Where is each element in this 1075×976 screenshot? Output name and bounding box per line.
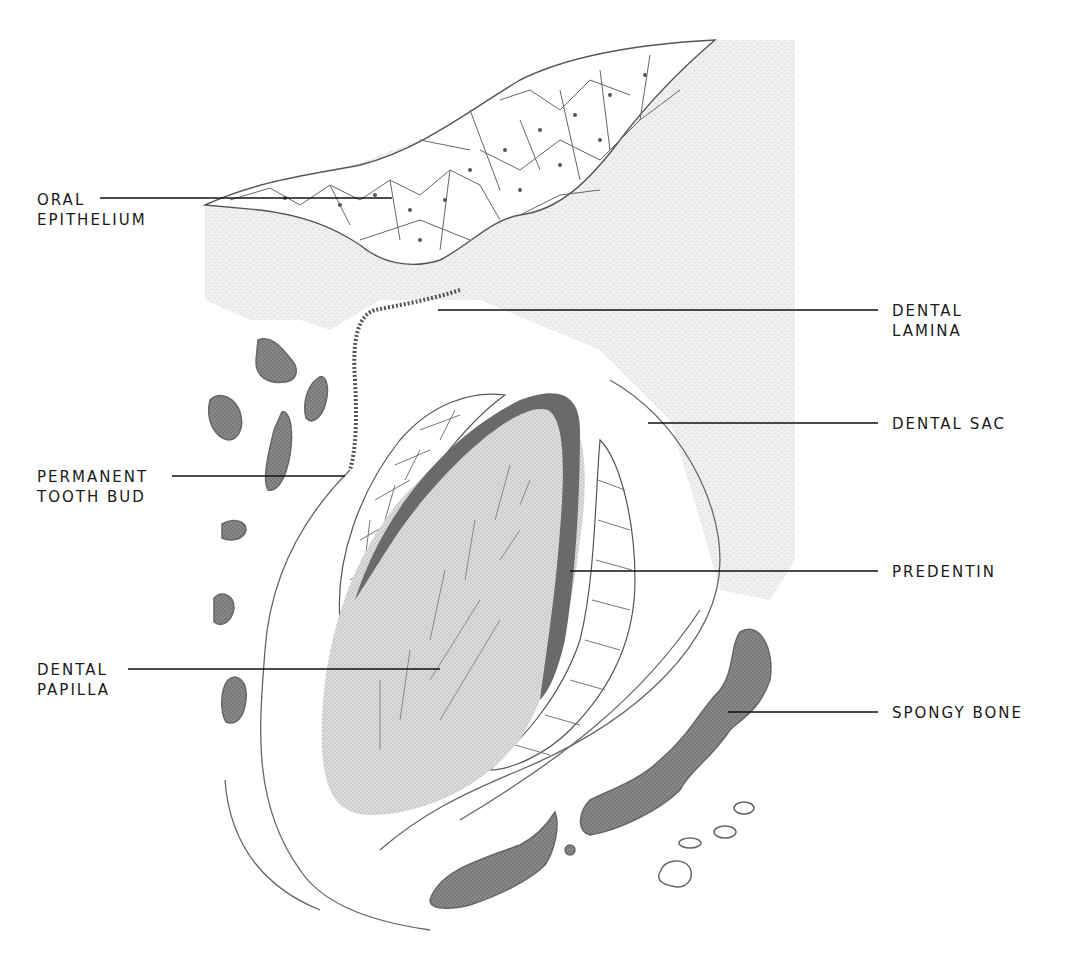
label-oral-epithelium: ORAL EPITHELIUM bbox=[37, 190, 147, 230]
label-dental-lamina-line2: LAMINA bbox=[892, 321, 963, 341]
tooth-development-diagram bbox=[0, 0, 1075, 976]
label-dental-papilla-line2: PAPILLA bbox=[37, 680, 110, 700]
label-predentin: PREDENTIN bbox=[892, 562, 996, 582]
label-permanent-tooth-bud: PERMANENT TOOTH BUD bbox=[37, 467, 148, 507]
label-dental-sac-line1: DENTAL SAC bbox=[892, 414, 1006, 434]
label-spongy-bone-line1: SPONGY BONE bbox=[892, 703, 1023, 723]
label-permanent-tooth-bud-line1: PERMANENT bbox=[37, 467, 148, 487]
label-dental-lamina-line1: DENTAL bbox=[892, 301, 963, 321]
label-predentin-line1: PREDENTIN bbox=[892, 562, 996, 582]
label-dental-papilla: DENTAL PAPILLA bbox=[37, 660, 110, 700]
label-permanent-tooth-bud-line2: TOOTH BUD bbox=[37, 487, 148, 507]
label-oral-epithelium-line1: ORAL bbox=[37, 190, 147, 210]
bone-outlines-small bbox=[659, 802, 754, 887]
label-spongy-bone: SPONGY BONE bbox=[892, 703, 1023, 723]
label-oral-epithelium-line2: EPITHELIUM bbox=[37, 210, 147, 230]
label-dental-sac: DENTAL SAC bbox=[892, 414, 1006, 434]
label-dental-papilla-line1: DENTAL bbox=[37, 660, 110, 680]
label-dental-lamina: DENTAL LAMINA bbox=[892, 301, 963, 341]
